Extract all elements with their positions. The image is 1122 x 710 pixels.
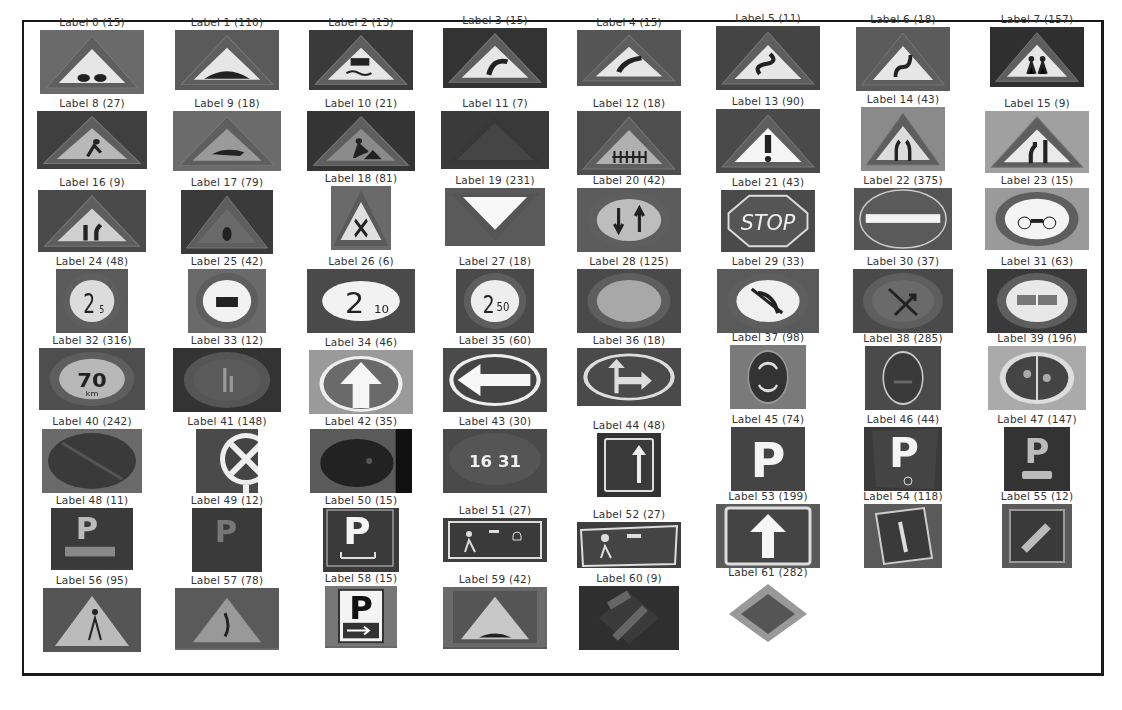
- sign-thumbnail-tri-x: [331, 186, 391, 250]
- sign-thumbnail-circ-dark: [310, 429, 412, 493]
- class-label: Label 52 (27): [593, 508, 666, 521]
- sign-sample-tile: Label 34 (46): [303, 336, 419, 414]
- class-label: Label 6 (18): [870, 13, 936, 26]
- sign-thumbnail-sq-ped2: [175, 588, 279, 650]
- sign-thumbnail-yield: [445, 188, 545, 246]
- sign-thumbnail-sq-p-bed: P: [323, 508, 399, 572]
- sign-thumbnail-tri-children: [990, 27, 1084, 87]
- sign-thumbnail-tri-dark: [181, 190, 273, 254]
- sign-sample-tile: Label 53 (199): [710, 490, 826, 568]
- class-label: Label 39 (196): [997, 332, 1076, 345]
- sign-sample-tile: Label 20 (42): [571, 174, 687, 252]
- class-label: Label 45 (74): [732, 413, 805, 426]
- class-label: Label 14 (43): [867, 93, 940, 106]
- sign-sample-tile: Label 32 (316) 70km: [34, 334, 150, 410]
- svg-text:16 31: 16 31: [469, 452, 521, 471]
- sign-sample-tile: Label 59 (42): [437, 573, 553, 649]
- sign-thumbnail-tri-rail: [577, 111, 681, 175]
- class-label: Label 5 (11): [735, 12, 801, 25]
- sign-sample-tile: Label 49 (12)P: [169, 494, 285, 572]
- class-label: Label 2 (13): [328, 16, 394, 29]
- class-label: Label 3 (15): [462, 14, 528, 27]
- svg-text:2: 2: [345, 287, 364, 320]
- sign-sample-tile: Label 11 (7): [437, 97, 553, 169]
- sign-thumbnail-tri-bump: [175, 30, 279, 90]
- sign-sample-tile: Label 16 (9): [34, 176, 150, 252]
- sign-sample-tile: Label 38 (285): [845, 332, 961, 410]
- sign-sample-tile: Label 48 (11)P: [34, 494, 150, 570]
- sign-sample-tile: Label 45 (74)P: [710, 413, 826, 491]
- class-label: Label 7 (157): [1001, 13, 1074, 26]
- class-label: Label 4 (15): [596, 16, 662, 29]
- sign-thumbnail-tri-excl: [716, 109, 820, 173]
- sign-thumbnail-circ-250: 250: [456, 269, 534, 333]
- class-label: Label 36 (18): [593, 334, 666, 347]
- sign-sample-tile: Label 61 (282): [710, 566, 826, 644]
- sign-sample-tile: Label 35 (60): [437, 334, 553, 412]
- class-label: Label 1 (110): [191, 16, 264, 29]
- class-label: Label 10 (21): [325, 97, 398, 110]
- class-label: Label 47 (147): [997, 413, 1076, 426]
- class-label: Label 22 (375): [863, 174, 942, 187]
- sign-sample-tile: Label 46 (44)P: [845, 413, 961, 491]
- class-label: Label 19 (231): [455, 174, 534, 187]
- svg-text:STOP: STOP: [741, 210, 796, 234]
- sign-thumbnail-tri-animal: [173, 111, 281, 171]
- sign-thumbnail-sq-p-disabled: P: [864, 427, 942, 491]
- sign-thumbnail-diamond-end: [579, 586, 679, 650]
- sign-sample-tile: Label 21 (43)STOP: [710, 176, 826, 252]
- sign-sample-tile: Label 43 (30)16 31: [437, 415, 553, 493]
- sign-thumbnail-circ-bikeb: [865, 346, 941, 410]
- svg-text:2: 2: [83, 289, 95, 319]
- svg-text:P: P: [349, 589, 373, 625]
- class-label: Label 34 (46): [325, 336, 398, 349]
- class-label: Label 24 (48): [56, 255, 129, 268]
- sign-sample-tile: Label 18 (81): [303, 172, 419, 250]
- sign-sample-tile: Label 55 (12): [979, 490, 1095, 568]
- class-label: Label 44 (48): [593, 419, 666, 432]
- sign-thumbnail-circ-ped: [988, 346, 1086, 410]
- sign-thumbnail-sq-oneway: [864, 504, 942, 568]
- sign-grid-figure: Label 0 (15) Label 1 (110) Label 2 (13) …: [22, 20, 1104, 676]
- sign-sample-tile: Label 47 (147)P: [979, 413, 1095, 491]
- sign-thumbnail-no-entry: [854, 188, 952, 250]
- sign-thumbnail-sq-bump: [443, 587, 547, 649]
- sign-sample-tile: Label 33 (12): [169, 334, 285, 412]
- class-label: Label 56 (95): [56, 574, 129, 587]
- svg-text:P: P: [751, 433, 786, 488]
- sign-thumbnail-stop: STOP: [721, 190, 815, 252]
- sign-thumbnail-sq-p: P: [731, 427, 805, 491]
- sign-thumbnail-rect-p-arrow: P: [325, 586, 397, 648]
- sign-sample-tile: Label 8 (27): [34, 97, 150, 169]
- sign-thumbnail-circ-25t: 25: [56, 269, 128, 333]
- sign-sample-tile: Label 36 (18): [571, 334, 687, 406]
- sign-sample-tile: Label 52 (27): [571, 508, 687, 568]
- sign-sample-tile: Label 51 (27): [437, 504, 553, 562]
- sign-thumbnail-tri-curve-r: [443, 28, 547, 88]
- class-label: Label 50 (15): [325, 494, 398, 507]
- sign-thumbnail-tri-plain: [441, 111, 549, 169]
- sign-sample-tile: Label 23 (15): [979, 174, 1095, 250]
- svg-text:P: P: [889, 429, 919, 477]
- sign-sample-tile: Label 2 (13): [303, 16, 419, 90]
- sign-sample-tile: Label 4 (15): [571, 16, 687, 86]
- sign-thumbnail-circ-left: [443, 348, 547, 412]
- sign-thumbnail-tri-narrow2: [985, 111, 1089, 173]
- sign-thumbnail-circ-nopass: [987, 269, 1087, 333]
- sign-sample-tile: Label 40 (242): [34, 415, 150, 493]
- class-label: Label 43 (30): [459, 415, 532, 428]
- class-label: Label 26 (6): [328, 255, 394, 268]
- sign-sample-tile: Label 60 (9): [571, 572, 687, 650]
- sign-thumbnail-sq-p-car: P: [1004, 427, 1070, 491]
- class-label: Label 16 (9): [59, 176, 125, 189]
- class-label: Label 23 (15): [1001, 174, 1074, 187]
- class-label: Label 40 (242): [52, 415, 131, 428]
- class-label: Label 48 (11): [56, 494, 129, 507]
- sign-thumbnail-tri-s: [716, 26, 820, 90]
- sign-thumbnail-sq-p-truck: P: [51, 508, 133, 570]
- svg-text:P: P: [76, 511, 98, 545]
- sign-sample-tile: Label 1 (110): [169, 16, 285, 90]
- sign-thumbnail-circ-1631: 16 31: [443, 429, 547, 493]
- svg-text:P: P: [215, 514, 237, 549]
- class-label: Label 11 (7): [462, 97, 528, 110]
